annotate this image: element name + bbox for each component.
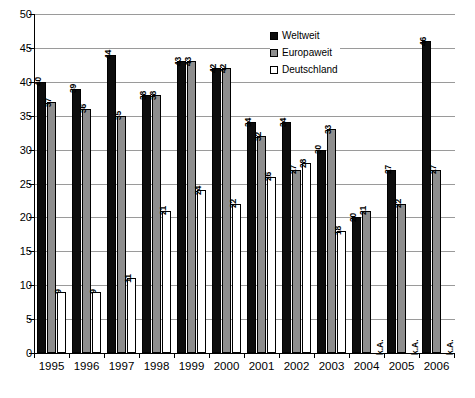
legend-item-europaweit: Europaweit (270, 47, 340, 59)
bar-value-label: 33 (323, 125, 332, 134)
bar-europaweit[interactable]: 35 (117, 116, 126, 353)
bar-deutschland[interactable]: 21 (162, 211, 171, 353)
bar-value-label: 21 (158, 206, 167, 215)
bar-value-label: 24 (193, 186, 202, 195)
legend-item-deutschland: Deutschland (270, 64, 340, 76)
bar-group: 434324 (177, 14, 206, 353)
legend-swatch-weltweit (270, 32, 278, 40)
bar-value-label: 22 (393, 199, 402, 208)
legend-label-deutschland: Deutschland (282, 65, 338, 75)
chart-legend: Weltweit Europaweit Deutschland (270, 30, 340, 81)
bar-weltweit[interactable]: 20 (352, 217, 361, 353)
x-axis-tick-mark (34, 353, 35, 358)
y-axis-tick-label: 40 (6, 77, 32, 88)
bar-value-label: 44 (103, 50, 112, 59)
bar-deutschland[interactable]: 24 (197, 190, 206, 353)
bar-weltweit[interactable]: 44 (107, 55, 116, 353)
x-axis-tick-mark (244, 353, 245, 358)
y-axis-tick-label: 5 (6, 314, 32, 325)
bar-weltweit[interactable]: 43 (177, 61, 186, 353)
bar-value-label: 34 (243, 118, 252, 127)
x-axis-tick-mark (454, 353, 455, 358)
bar-value-label: 42 (218, 64, 227, 73)
bar-deutschland[interactable]: 11 (127, 278, 136, 353)
x-axis-tick-mark (314, 353, 315, 358)
bar-deutschland[interactable]: 9 (92, 292, 101, 353)
bar-group: 4627k.A. (422, 14, 451, 353)
y-axis-tick-label: 45 (6, 43, 32, 54)
bar-value-label: 43 (183, 57, 192, 66)
bar-value-label: 37 (43, 98, 52, 107)
bar-group: 39369 (72, 14, 101, 353)
bar-value-label: 43 (173, 57, 182, 66)
bar-value-label: 40 (33, 77, 42, 86)
bar-europaweit[interactable]: 32 (257, 136, 266, 353)
bar-value-label: 46 (418, 37, 427, 46)
x-axis-tick-mark (139, 353, 140, 358)
bar-value-label: 35 (113, 111, 122, 120)
bar-chart: Weltweit Europaweit Deutschland 05101520… (0, 0, 475, 398)
bar-group: 2722k.A. (387, 14, 416, 353)
x-axis-tick-mark (279, 353, 280, 358)
bar-europaweit[interactable]: 33 (327, 129, 336, 353)
bar-value-label: 30 (313, 145, 322, 154)
bar-value-label: 18 (333, 226, 342, 235)
bar-value-label: 21 (358, 206, 367, 215)
bar-europaweit[interactable]: 37 (47, 102, 56, 353)
y-axis-tick-label: 10 (6, 280, 32, 291)
bar-value-label: 39 (68, 84, 77, 93)
bar-value-label: 36 (78, 104, 87, 113)
bar-group: 443511 (107, 14, 136, 353)
bar-europaweit[interactable]: 22 (397, 204, 406, 353)
x-axis-tick-mark (104, 353, 105, 358)
bar-europaweit[interactable]: 21 (362, 211, 371, 353)
bar-europaweit[interactable]: 36 (82, 109, 91, 353)
bar-weltweit[interactable]: 34 (282, 122, 291, 353)
bar-weltweit[interactable]: 27 (387, 170, 396, 353)
bar-group: 383821 (142, 14, 171, 353)
bar-deutschland[interactable]: 9 (57, 292, 66, 353)
bar-europaweit[interactable]: 42 (222, 68, 231, 353)
no-data-label: k.A. (372, 343, 381, 352)
x-axis-tick-mark (419, 353, 420, 358)
legend-label-weltweit: Weltweit (282, 31, 320, 41)
bar-deutschland[interactable]: 22 (232, 204, 241, 353)
bar-weltweit[interactable]: 42 (212, 68, 221, 353)
bar-europaweit[interactable]: 27 (432, 170, 441, 353)
bar-value-label: 27 (428, 165, 437, 174)
x-axis-tick-mark (209, 353, 210, 358)
bar-value-label: 27 (288, 165, 297, 174)
x-axis-tick-mark (384, 353, 385, 358)
bar-group: 2021k.A. (352, 14, 381, 353)
bar-value-label: 11 (123, 274, 132, 283)
bar-weltweit[interactable]: 39 (72, 89, 81, 353)
bar-europaweit[interactable]: 27 (292, 170, 301, 353)
y-axis-tick-label: 35 (6, 111, 32, 122)
bar-weltweit[interactable]: 30 (317, 150, 326, 353)
bar-europaweit[interactable]: 43 (187, 61, 196, 353)
bar-weltweit[interactable]: 34 (247, 122, 256, 353)
bar-value-label: 9 (88, 290, 97, 295)
bar-value-label: 22 (228, 199, 237, 208)
bar-deutschland[interactable]: 18 (337, 231, 346, 353)
bar-europaweit[interactable]: 38 (152, 95, 161, 353)
bar-value-label: 42 (208, 64, 217, 73)
bar-value-label: 28 (298, 159, 307, 168)
bar-value-label: 9 (53, 290, 62, 295)
bar-weltweit[interactable]: 38 (142, 95, 151, 353)
bar-value-label: 34 (278, 118, 287, 127)
bar-value-label: 38 (138, 91, 147, 100)
x-axis-tick-mark (174, 353, 175, 358)
bar-group: 40379 (37, 14, 66, 353)
y-axis-tick-label: 15 (6, 246, 32, 257)
bar-deutschland[interactable]: 26 (267, 177, 276, 353)
x-axis-tick-label: 2006 (415, 361, 459, 373)
bar-deutschland[interactable]: 28 (302, 163, 311, 353)
legend-item-weltweit: Weltweit (270, 30, 340, 42)
bar-value-label: 32 (253, 132, 262, 141)
bar-value-label: 27 (383, 165, 392, 174)
bar-weltweit[interactable]: 46 (422, 41, 431, 353)
legend-swatch-europaweit (270, 49, 278, 57)
bar-weltweit[interactable]: 40 (37, 82, 46, 353)
y-axis-tick-label: 20 (6, 212, 32, 223)
